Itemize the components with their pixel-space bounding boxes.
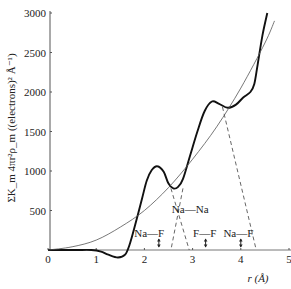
x-tick-label: 4 bbox=[238, 253, 244, 265]
dashed-peak-guide bbox=[171, 188, 183, 250]
double-arrow-icon bbox=[157, 239, 161, 248]
y-tick-label: 500 bbox=[30, 205, 47, 217]
radial-distribution-chart: 50010001500200025003000012345r (Å)ΣK_m 4… bbox=[0, 0, 291, 289]
x-tick-label: 1 bbox=[93, 253, 99, 265]
bond-label: F—F bbox=[193, 227, 216, 239]
double-arrow-icon bbox=[239, 239, 243, 248]
dashed-peak-guide bbox=[171, 188, 189, 250]
experimental-rdf-curve bbox=[48, 13, 267, 258]
y-axis-label: ΣK_m 4πr²ρ_m ((electrons)² Å⁻¹) bbox=[5, 53, 18, 202]
bond-label: Na—F bbox=[134, 227, 164, 239]
y-tick-label: 2000 bbox=[24, 86, 47, 98]
x-tick-label: 3 bbox=[190, 253, 196, 265]
x-tick-label: 2 bbox=[142, 253, 148, 265]
bond-label: Na—Na bbox=[172, 203, 209, 215]
bond-label: Na—F bbox=[223, 227, 253, 239]
y-tick-label: 3000 bbox=[24, 7, 47, 19]
axes: 50010001500200025003000012345r (Å)ΣK_m 4… bbox=[5, 7, 291, 285]
average-density-curve bbox=[48, 21, 275, 250]
curves bbox=[48, 13, 275, 258]
x-tick-label: 5 bbox=[286, 253, 291, 265]
x-axis-label: r (Å) bbox=[247, 272, 268, 285]
y-tick-label: 1000 bbox=[24, 165, 47, 177]
x-tick-label: 0 bbox=[45, 253, 51, 265]
double-arrow-icon bbox=[204, 239, 208, 248]
y-tick-label: 2500 bbox=[24, 47, 47, 59]
y-tick-label: 1500 bbox=[24, 126, 47, 138]
annotations: Na—FNa—NaF—FNa—F bbox=[134, 203, 253, 248]
